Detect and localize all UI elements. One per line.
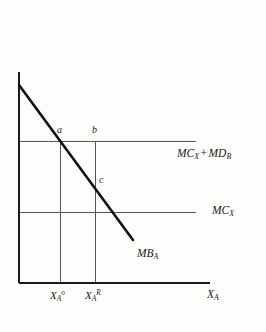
xaxis-base: X <box>207 288 214 300</box>
mc-base: MC <box>177 147 194 159</box>
x-tick-label-regulated: XAR <box>85 290 101 301</box>
diagram-svg <box>0 0 266 332</box>
marginal-benefit-curve <box>19 85 133 240</box>
point-label-a: a <box>57 125 62 135</box>
x-axis-label: XA <box>207 289 219 301</box>
mc-only-sub: X <box>229 209 234 218</box>
tick0-base: X <box>50 289 57 301</box>
tick1-base: X <box>85 289 92 301</box>
point-label-c: c <box>99 175 103 185</box>
xaxis-sub: A <box>214 293 219 302</box>
curve-label-mc: MCX <box>212 205 234 217</box>
x-tick-label-optimal: XAo <box>50 290 65 301</box>
tick0-sup: o <box>61 289 65 297</box>
md-sub: B <box>226 152 231 161</box>
mb-sub: A <box>154 252 159 261</box>
point-label-b: b <box>92 125 97 135</box>
tick1-sup: R <box>96 289 100 297</box>
curve-label-mb: MBA <box>137 248 158 260</box>
mc-only-base: MC <box>212 204 229 216</box>
figure-canvas: a b c MCX+MDB MCX MBA XAo XAR XA <box>0 0 266 332</box>
curve-label-mc-plus-md: MCX+MDB <box>177 148 231 160</box>
md-base: MD <box>209 147 227 159</box>
plus-operator: + <box>199 147 209 159</box>
mb-base: MB <box>137 247 154 259</box>
